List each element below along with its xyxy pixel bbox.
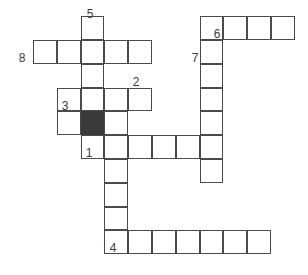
- clue-number-8: 8: [14, 52, 30, 64]
- letter-cell[interactable]: [104, 111, 128, 135]
- letter-cell[interactable]: [128, 135, 152, 159]
- letter-cell[interactable]: [104, 159, 128, 183]
- letter-cell[interactable]: [200, 230, 224, 254]
- letter-cell[interactable]: [152, 135, 176, 159]
- letter-cell[interactable]: [128, 40, 152, 64]
- blocked-cell: [81, 111, 105, 135]
- letter-cell[interactable]: [57, 111, 81, 135]
- letter-cell[interactable]: [81, 40, 105, 64]
- letter-cell[interactable]: [128, 230, 152, 254]
- letter-cell[interactable]: [152, 230, 176, 254]
- letter-cell[interactable]: [176, 230, 200, 254]
- letter-cell[interactable]: [200, 40, 224, 64]
- letter-cell[interactable]: [247, 16, 271, 40]
- clue-number-1: 1: [81, 147, 97, 159]
- clue-number-6: 6: [209, 28, 225, 40]
- clue-number-5: 5: [82, 8, 98, 20]
- letter-cell[interactable]: [200, 135, 224, 159]
- letter-cell[interactable]: [104, 135, 128, 159]
- letter-cell[interactable]: [247, 230, 271, 254]
- letter-cell[interactable]: [81, 64, 105, 88]
- letter-cell[interactable]: [128, 88, 152, 112]
- clue-number-2: 2: [128, 76, 144, 88]
- clue-number-4: 4: [105, 242, 121, 254]
- letter-cell[interactable]: [200, 159, 224, 183]
- letter-cell[interactable]: [223, 16, 247, 40]
- letter-cell[interactable]: [223, 230, 247, 254]
- clue-number-7: 7: [187, 52, 203, 64]
- letter-cell[interactable]: [104, 183, 128, 207]
- letter-cell[interactable]: [104, 88, 128, 112]
- crossword-puzzle: 58672314: [0, 0, 308, 275]
- letter-cell[interactable]: [271, 16, 295, 40]
- letter-cell[interactable]: [200, 111, 224, 135]
- letter-cell[interactable]: [104, 40, 128, 64]
- letter-cell[interactable]: [104, 207, 128, 231]
- letter-cell[interactable]: [81, 88, 105, 112]
- letter-cell[interactable]: [33, 40, 57, 64]
- clue-number-3: 3: [57, 100, 73, 112]
- letter-cell[interactable]: [176, 135, 200, 159]
- letter-cell[interactable]: [57, 40, 81, 64]
- letter-cell[interactable]: [200, 88, 224, 112]
- letter-cell[interactable]: [200, 64, 224, 88]
